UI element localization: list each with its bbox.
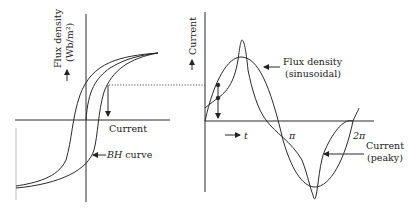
flux-label-line2: (sinusoidal) — [285, 68, 341, 79]
right-panel — [192, 12, 374, 199]
two-pi-label: 2π — [352, 130, 366, 141]
left-y-axis-label: Flux density — [52, 8, 63, 68]
left-y-axis-unit: (Wb/m²) — [64, 23, 75, 62]
bh-curve-label: BH curve — [106, 149, 153, 160]
time-label: t — [244, 130, 248, 141]
diagram-svg: Flux density (Wb/m²) Current BH curve Cu… — [0, 0, 409, 215]
flux-label-line1: Flux density — [283, 56, 343, 67]
bh-curve-diagram: Flux density (Wb/m²) Current BH curve Cu… — [0, 0, 409, 215]
pi-label: π — [288, 130, 296, 141]
current-label-line2: (peaky) — [367, 152, 403, 163]
left-x-axis-label: Current — [109, 123, 147, 134]
current-label-line1: Current — [366, 140, 404, 151]
initial-magnetization-curve — [86, 53, 158, 120]
left-panel — [15, 14, 205, 202]
right-y-axis-label: Current — [187, 17, 198, 55]
